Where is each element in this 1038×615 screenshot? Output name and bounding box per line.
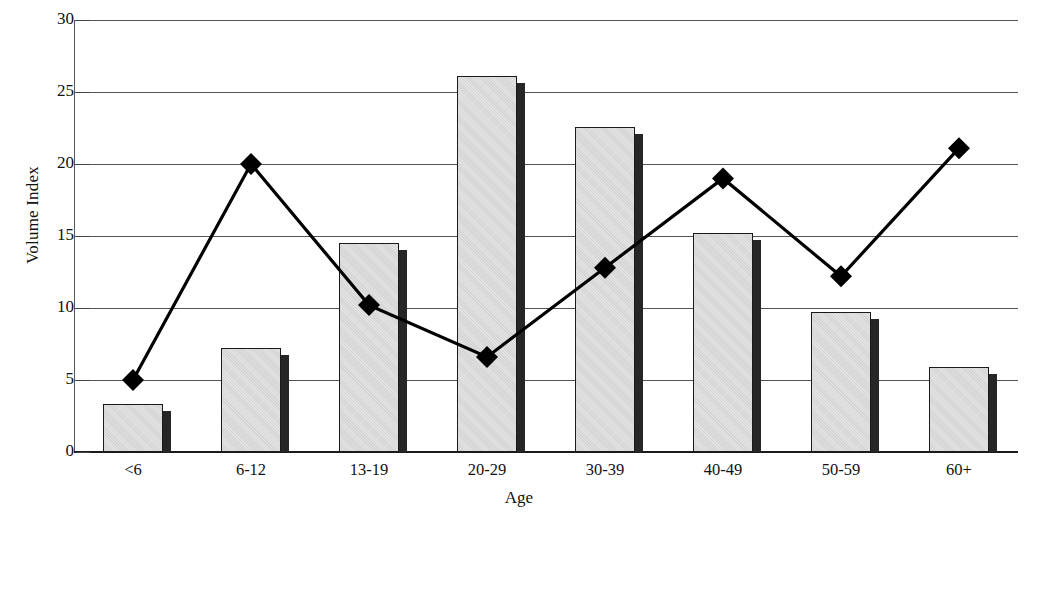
plot-area: 051015202530 <6: 56-12: 2013-19: 10.220-… [74, 20, 1018, 452]
legend: Legend: Carbonated soft drink users Squi… [0, 524, 1038, 604]
x-axis-title: Age [0, 488, 1038, 508]
x-tick-label-<6: <6 [74, 460, 192, 480]
chart-figure: Volume Index 051015202530 <6: 56-12: 201… [0, 0, 1038, 615]
x-tick-label-13-19: 13-19 [310, 460, 428, 480]
y-tick-label: 15 [57, 225, 74, 245]
y-tick-label: 25 [57, 81, 74, 101]
x-tick-label-50-59: 50-59 [782, 460, 900, 480]
y-tick-label: 30 [57, 9, 74, 29]
x-tick-label-6-12: 6-12 [192, 460, 310, 480]
y-tick-label: 5 [66, 369, 75, 389]
line-path [133, 148, 959, 380]
line-series-squirt-users: <6: 56-12: 2013-19: 10.220-29: 6.630-39:… [74, 20, 1018, 452]
y-tick-label: 20 [57, 153, 74, 173]
x-tick-label-60+: 60+ [900, 460, 1018, 480]
x-tick-label-30-39: 30-39 [546, 460, 664, 480]
data-point-marker-<6: <6: 5 [122, 369, 144, 391]
x-tick-label-20-29: 20-29 [428, 460, 546, 480]
y-axis-title: Volume Index [23, 135, 43, 295]
y-tick-label: 0 [66, 441, 75, 461]
y-tick-mark [76, 452, 90, 453]
y-tick-label: 10 [57, 297, 74, 317]
x-tick-label-40-49: 40-49 [664, 460, 782, 480]
